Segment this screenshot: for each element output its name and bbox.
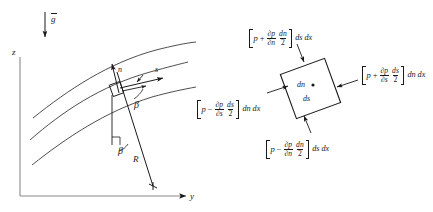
z-axis-label: z <box>12 48 16 57</box>
radius-label-R: R <box>133 155 139 164</box>
upper-beta-label: β <box>134 100 139 110</box>
gravity-label: g <box>51 15 56 24</box>
force-arrow-right <box>337 80 358 87</box>
left-force-suffix: dn dx <box>242 105 260 113</box>
lower-beta-label: β <box>118 146 123 156</box>
top-force-frac1: ∂p ∂n <box>267 30 277 46</box>
force-arrow-left <box>267 86 288 93</box>
right-force-p: p <box>367 71 371 80</box>
top-force-p: p <box>254 34 258 43</box>
element-ds-label: ds <box>303 95 310 103</box>
streamwise-vector-s <box>120 75 163 88</box>
top-force-suffix: ds dx <box>295 34 312 42</box>
streamline-outer <box>30 62 188 140</box>
bottom-force-frac2: dn 2 <box>295 141 305 157</box>
right-force-frac2: ds 2 <box>391 67 400 83</box>
force-label-right: p + ∂p ∂s ds 2 dn dx <box>362 65 425 85</box>
element-center-dot <box>311 83 314 86</box>
top-force-op: + <box>260 34 265 43</box>
bottom-force-p: p <box>271 145 275 154</box>
left-force-frac2: ds 2 <box>226 101 235 117</box>
fluid-element-rotated <box>280 58 340 118</box>
gravity-label-text: g <box>51 14 56 24</box>
bottom-force-suffix: ds dx <box>312 145 329 153</box>
bottom-force-frac1: ∂p ∂n <box>284 141 294 157</box>
upper-beta-indicator <box>122 86 146 99</box>
left-force-op: − <box>208 105 213 114</box>
figure-canvas: g z y n s β β R dn ds p + ∂p ∂n dn 2 d <box>0 0 433 212</box>
y-axis-label: y <box>190 192 194 201</box>
streamline-inner <box>33 42 196 118</box>
right-force-frac1: ∂p ∂s <box>380 67 390 83</box>
element-dn-label: dn <box>297 81 305 89</box>
force-label-left: p − ∂p ∂s ds 2 dn dx <box>197 99 260 119</box>
left-force-frac1: ∂p ∂s <box>215 101 225 117</box>
streamline-group <box>30 42 196 165</box>
force-label-top: p + ∂p ∂n dn 2 ds dx <box>249 28 312 48</box>
streamline-middle <box>32 87 196 165</box>
right-force-suffix: dn dx <box>407 71 425 79</box>
normal-label-n: n <box>118 66 122 74</box>
top-force-frac2: dn 2 <box>278 30 288 46</box>
lower-beta-construction <box>112 95 128 151</box>
right-force-op: + <box>373 71 378 80</box>
bottom-force-op: − <box>277 145 282 154</box>
force-label-bottom: p − ∂p ∂n dn 2 ds dx <box>266 139 329 159</box>
streamwise-label-s: s <box>155 66 158 74</box>
left-force-p: p <box>202 105 206 114</box>
force-arrow-bottom <box>304 116 311 133</box>
